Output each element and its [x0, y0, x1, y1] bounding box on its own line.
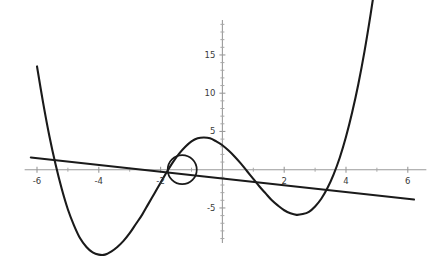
- x-tick-label: -6: [33, 176, 41, 186]
- y-tick-label: -5: [207, 203, 215, 213]
- y-tick-label: 5: [210, 126, 215, 136]
- x-tick-label: -4: [95, 176, 103, 186]
- x-tick-label: 4: [343, 176, 348, 186]
- plot-canvas: -6-4-2246 15105-5: [0, 0, 434, 263]
- chart-svg: -6-4-2246 15105-5: [0, 0, 434, 263]
- axes-group: [25, 20, 427, 243]
- x-tick-label: 2: [281, 176, 286, 186]
- y-tick-label: 10: [205, 88, 216, 98]
- series-quartic-curve: [37, 0, 377, 255]
- y-tick-label: 15: [205, 50, 216, 60]
- x-tick-label: 6: [405, 176, 410, 186]
- y-axis-tick-labels: 15105-5: [205, 50, 216, 213]
- x-tick-label: -2: [156, 176, 164, 186]
